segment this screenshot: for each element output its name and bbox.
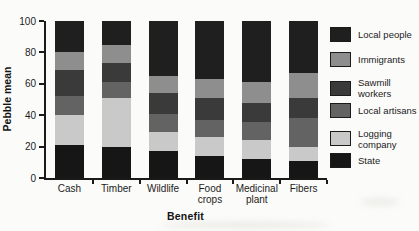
bar-segment-logging-company bbox=[55, 115, 84, 145]
y-tick-label: 20 bbox=[10, 141, 36, 152]
legend-label-line: company bbox=[358, 139, 397, 150]
bar-segment-immigrants bbox=[289, 73, 318, 98]
bar-segment-logging-company bbox=[289, 147, 318, 161]
y-axis-tick bbox=[39, 20, 44, 22]
bar-segment-sawmill-workers bbox=[289, 98, 318, 118]
bar-wildlife bbox=[149, 21, 178, 178]
bar-segment-local-people bbox=[149, 21, 178, 76]
y-tick-label: 100 bbox=[10, 16, 36, 27]
bar-segment-logging-company bbox=[149, 132, 178, 151]
legend-label-line: State bbox=[358, 155, 380, 166]
bar-segment-sawmill-workers bbox=[149, 93, 178, 113]
bar-segment-logging-company bbox=[102, 98, 131, 147]
legend-swatch bbox=[330, 27, 351, 42]
y-axis-tick bbox=[39, 177, 44, 179]
bar-segment-local-artisans bbox=[55, 96, 84, 115]
bar-segment-local-people bbox=[242, 21, 271, 82]
bar-segment-local-artisans bbox=[195, 120, 224, 137]
legend-swatch bbox=[330, 81, 351, 96]
scan-smudge bbox=[160, 222, 330, 228]
y-tick-label: 80 bbox=[10, 47, 36, 58]
legend-item-logging-company: Loggingcompany bbox=[330, 128, 397, 150]
legend-label: Immigrants bbox=[358, 54, 405, 65]
bar-cash bbox=[55, 21, 84, 178]
bar-segment-state bbox=[195, 156, 224, 178]
y-axis-tick bbox=[39, 51, 44, 53]
legend-item-sawmill-workers: Sawmillworkers bbox=[330, 77, 391, 99]
bar-segment-state bbox=[289, 161, 318, 178]
bar-segment-immigrants bbox=[195, 79, 224, 98]
legend-label: Loggingcompany bbox=[358, 128, 397, 150]
bar-segment-state bbox=[242, 159, 271, 178]
bar-segment-local-people bbox=[195, 21, 224, 79]
bar-segment-sawmill-workers bbox=[55, 70, 84, 97]
bar-segment-local-people bbox=[102, 21, 131, 45]
legend-item-local-people: Local people bbox=[330, 27, 412, 42]
bar-segment-immigrants bbox=[102, 45, 131, 64]
bar-segment-immigrants bbox=[242, 82, 271, 102]
legend-swatch bbox=[330, 153, 351, 168]
bar-segment-logging-company bbox=[195, 137, 224, 156]
bar-segment-state bbox=[102, 147, 131, 178]
bar-segment-state bbox=[55, 145, 84, 178]
bar-segment-state bbox=[149, 151, 178, 178]
bar-segment-local-artisans bbox=[242, 122, 271, 141]
x-category-label: Fibers bbox=[274, 184, 334, 195]
bar-segment-local-artisans bbox=[289, 118, 318, 146]
bar-segment-sawmill-workers bbox=[242, 103, 271, 122]
bar-medicinal-plant bbox=[242, 21, 271, 178]
bar-segment-local-artisans bbox=[149, 114, 178, 133]
bar-timber bbox=[102, 21, 131, 178]
x-axis-title: Benefit bbox=[44, 210, 327, 222]
legend-label: Local artisans bbox=[358, 105, 417, 116]
legend-label: Local people bbox=[358, 29, 412, 40]
legend-label-line: Immigrants bbox=[358, 54, 405, 65]
bar-segment-local-people bbox=[55, 21, 84, 52]
y-tick-label: 40 bbox=[10, 110, 36, 121]
bar-fibers bbox=[289, 21, 318, 178]
bar-segment-logging-company bbox=[242, 140, 271, 159]
y-axis-tick bbox=[39, 146, 44, 148]
bar-segment-immigrants bbox=[149, 76, 178, 93]
legend-label-line: Local artisans bbox=[358, 105, 417, 116]
x-category-label-line: plant bbox=[227, 195, 287, 206]
legend-swatch bbox=[330, 52, 351, 67]
bar-segment-sawmill-workers bbox=[102, 63, 131, 82]
legend-label-line: Logging bbox=[358, 128, 397, 139]
legend-swatch bbox=[330, 131, 351, 146]
bar-segment-sawmill-workers bbox=[195, 98, 224, 120]
scan-smudge bbox=[360, 198, 400, 206]
plot-area bbox=[44, 21, 327, 180]
bar-segment-immigrants bbox=[55, 52, 84, 69]
legend-label: State bbox=[358, 155, 380, 166]
bar-food-crops bbox=[195, 21, 224, 178]
legend-label-line: Sawmill bbox=[358, 77, 391, 88]
y-axis-tick bbox=[39, 83, 44, 85]
legend-item-state: State bbox=[330, 153, 380, 168]
legend-item-local-artisans: Local artisans bbox=[330, 103, 417, 118]
legend-label-line: workers bbox=[358, 88, 391, 99]
legend-label-line: Local people bbox=[358, 29, 412, 40]
y-tick-label: 60 bbox=[10, 78, 36, 89]
bar-segment-local-artisans bbox=[102, 82, 131, 98]
y-axis-tick bbox=[39, 114, 44, 116]
legend-swatch bbox=[330, 103, 351, 118]
stacked-bar-chart-figure: Pebble mean 020406080100 CashTimberWildl… bbox=[0, 0, 419, 231]
legend-item-immigrants: Immigrants bbox=[330, 52, 405, 67]
x-category-label-line: Fibers bbox=[274, 184, 334, 195]
legend-label: Sawmillworkers bbox=[358, 77, 391, 99]
y-tick-label: 0 bbox=[10, 173, 36, 184]
bar-segment-local-people bbox=[289, 21, 318, 73]
